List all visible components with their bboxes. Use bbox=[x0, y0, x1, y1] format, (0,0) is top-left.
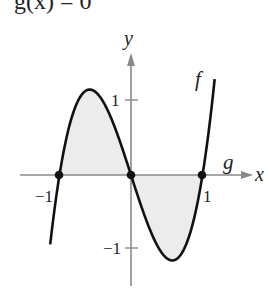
line-g-label: g bbox=[223, 150, 234, 174]
x-axis-label: x bbox=[254, 163, 264, 185]
x-tick-label-1: 1 bbox=[203, 187, 212, 206]
y-axis-label: y bbox=[122, 27, 133, 50]
function-graph: y x f g 1 −1 −1 1 bbox=[0, 0, 269, 293]
intersection-point-1 bbox=[198, 171, 207, 180]
curve-f-label: f bbox=[195, 67, 204, 91]
y-tick-label-1: 1 bbox=[111, 91, 120, 110]
intersection-point-neg1 bbox=[55, 171, 64, 180]
y-axis-arrow-icon bbox=[127, 53, 135, 66]
y-tick-label-neg1: −1 bbox=[103, 239, 121, 258]
intersection-point-0 bbox=[127, 171, 136, 180]
x-axis-arrow-icon bbox=[241, 171, 253, 179]
x-tick-label-neg1: −1 bbox=[35, 187, 53, 206]
